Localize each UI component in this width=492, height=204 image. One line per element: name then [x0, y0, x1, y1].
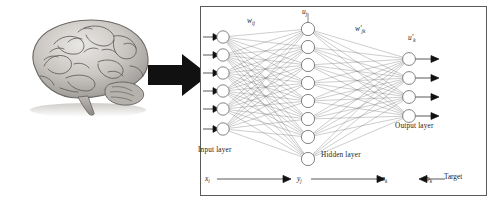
node-hidden [301, 130, 314, 143]
input-layer-nodes [217, 31, 229, 135]
node-hidden [301, 112, 314, 125]
signal-subscript: k [430, 178, 432, 184]
activation-subscript: j [306, 11, 307, 17]
node-input [217, 31, 229, 43]
signal-label-target-value: ok [426, 174, 432, 184]
output-arrows [415, 56, 439, 120]
node-output [403, 91, 416, 104]
hidden-layer-nodes [301, 22, 314, 165]
weight-label-input-hidden: wij [247, 16, 255, 26]
signal-subscript: j [300, 178, 301, 184]
signal-subscript: k [385, 178, 387, 184]
signal-label-output: zk [382, 174, 387, 184]
connections-hidden-output [308, 29, 409, 159]
signal-label-hidden: yj [297, 174, 302, 184]
activation-label-output: u′k [408, 33, 416, 43]
node-input [217, 85, 229, 97]
output-layer-nodes [403, 53, 416, 123]
activation-subscript: k [413, 37, 415, 43]
output-layer-label: Output layer [395, 122, 434, 130]
weight-label-hidden-output: w′jk [355, 24, 365, 34]
connections-input-hidden [223, 29, 308, 159]
signal-label-input: xi [205, 174, 210, 184]
signal-flow-arrows [217, 175, 445, 182]
signal-subscript: i [208, 178, 209, 184]
activation-label-hidden: uj [302, 7, 307, 17]
target-label: Target [444, 173, 462, 181]
node-hidden [301, 76, 314, 89]
input-layer-label: Input layer [198, 146, 232, 154]
node-hidden [301, 152, 314, 165]
figure-canvas: Input layer Hidden layer Output layer wi… [0, 0, 492, 204]
node-hidden [301, 58, 314, 71]
node-hidden [301, 22, 314, 35]
node-output [403, 72, 416, 85]
node-hidden [301, 40, 314, 53]
weight-subscript: ij [252, 20, 255, 26]
weight-subscript: jk [362, 28, 366, 34]
node-output [403, 53, 416, 66]
node-output [403, 110, 416, 123]
node-hidden [301, 94, 314, 107]
node-input [217, 67, 229, 79]
node-input [217, 123, 229, 135]
network-diagram-panel [200, 6, 487, 196]
node-input [217, 103, 229, 115]
node-input [217, 49, 229, 61]
hidden-layer-label: Hidden layer [321, 151, 361, 159]
input-arrows [203, 34, 219, 133]
cerebellum [105, 82, 144, 105]
